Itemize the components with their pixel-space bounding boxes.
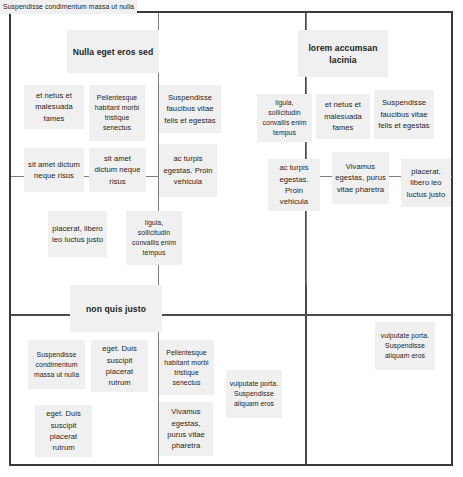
node-title-top-right[interactable]: lorem accumsan lacinia — [298, 30, 388, 77]
node-bl-7[interactable]: vulputate porta. Suspendisse aliquam ero… — [226, 370, 282, 418]
node-tr-5[interactable]: Vivamus egestas, purus vitae pharetra — [332, 152, 389, 204]
node-tl-8[interactable]: ligula, sollicitudin convallis enim temp… — [126, 211, 182, 265]
node-tr-3[interactable]: Suspendisse faucibus vitae felis et eges… — [374, 90, 434, 139]
node-bl-5[interactable]: Suspendisse condimentum massa ut nulla — [0, 0, 137, 14]
node-bl-4[interactable]: eget. Duis suscipit placerat rutrum — [35, 405, 92, 457]
node-tr-1[interactable]: ligula, sollicitudin convallis enim temp… — [257, 94, 312, 142]
connector-tr-stem-2 — [306, 140, 307, 158]
node-bl-1[interactable]: Suspendisse condimentum massa ut nulla — [28, 340, 85, 389]
node-tl-5[interactable]: sit amet dictum neque risus — [89, 148, 146, 192]
node-tl-6[interactable]: ac turpis egestas. Proin vehicula — [159, 144, 217, 197]
node-title-top-left[interactable]: Nulla eget eros sed — [67, 30, 159, 73]
node-tl-3[interactable]: Suspendisse faucibus vitae felis et eges… — [159, 85, 221, 133]
connector-tr-stem-1 — [306, 80, 307, 94]
node-tr-4[interactable]: ac turpis egestas. Proin vehicula — [268, 159, 320, 211]
node-bl-3[interactable]: Pellentesque habitant morbi tristique se… — [159, 340, 214, 395]
node-tl-7[interactable]: placerat, libero leo luctus justo — [48, 211, 107, 257]
node-tl-4[interactable]: sit amet dictum neque risus — [24, 148, 84, 192]
diagram-canvas: Nulla eget eros sed et netus et malesuad… — [0, 0, 463, 477]
node-bl-2[interactable]: eget. Duis suscipit placerat rutrum — [91, 340, 148, 392]
node-tl-1[interactable]: et netus et malesuada fames — [24, 85, 84, 129]
node-tr-6[interactable]: placerat, libero leo luctus justo — [401, 159, 451, 207]
node-title-bottom-left[interactable]: non quis justo — [70, 285, 162, 332]
node-bl-6[interactable]: Vivamus egestas, purus vitae pharetra — [159, 402, 213, 456]
node-tr-2[interactable]: et netus et malesuada fames — [316, 94, 370, 139]
node-tl-2[interactable]: Pellentesque habitant morbi tristique se… — [89, 85, 145, 141]
node-br-1[interactable]: vulputate porta. Suspendisse aliquam ero… — [375, 322, 435, 370]
